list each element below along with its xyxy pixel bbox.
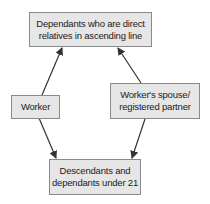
node-spouse-partner: Worker's spouse/ registered partner	[110, 83, 200, 119]
arrow-worker-to-ascending	[42, 48, 62, 95]
arrow-worker-to-descendants	[39, 118, 56, 158]
node-worker: Worker	[11, 95, 60, 119]
node-label-line2: relatives in ascending line	[36, 30, 145, 42]
node-ascending-relatives: Dependants who are direct relatives in a…	[29, 12, 152, 47]
node-label-line1: Descendants and	[52, 165, 138, 177]
node-label: Worker	[21, 101, 50, 113]
node-descendants: Descendants and dependants under 21	[49, 159, 141, 195]
arrow-spouse-to-descendants	[132, 119, 145, 158]
node-label-line1: Worker's spouse/	[119, 89, 190, 101]
arrow-spouse-to-ascending	[118, 48, 141, 83]
node-label-line2: dependants under 21	[52, 177, 138, 189]
node-label-line2: registered partner	[119, 101, 190, 113]
node-label-line1: Dependants who are direct	[36, 18, 145, 30]
